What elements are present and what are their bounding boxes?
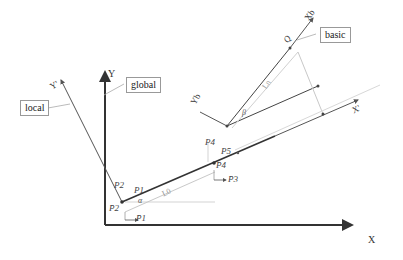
parallel-line [235,85,380,150]
global-y-label: Y [108,68,115,79]
point-p3bar: P̄3 [228,174,238,184]
local-x-axis [275,100,358,136]
global-callout: global [126,77,161,93]
point-p1: P1 [134,185,144,195]
angle-alpha: α [138,196,142,205]
global-leader [104,84,124,95]
point-p2: P2 [114,180,124,190]
point-p2bar: P̄2 [109,203,119,213]
basic-callout: basic [320,27,351,43]
basic-y-axis [200,112,227,126]
deformed-chord [227,86,318,126]
local-callout: local [20,100,49,116]
element-chord [122,136,275,202]
point-p5: P5 [221,146,231,156]
point-p1bar: P̄1 [136,213,146,223]
angle-beta: β [242,108,246,117]
basic-chord [227,48,290,126]
basic-x-axis [290,18,313,48]
global-x-label: X [368,234,375,245]
point-p4bar: P̄4 [216,160,226,170]
local-y-axis [61,80,122,202]
point-p4: P4 [205,137,215,147]
local-leader [48,104,70,108]
perp-line [298,52,323,114]
